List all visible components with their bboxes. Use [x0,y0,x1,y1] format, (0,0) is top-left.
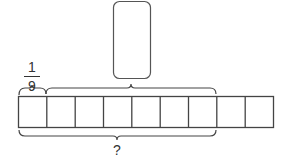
unit-fraction-label: 1 9 [22,60,42,93]
fraction-denominator: 9 [22,79,42,93]
fraction-bar [24,76,40,77]
brace-total [19,130,216,140]
unknown-total-label: ? [108,142,126,158]
answer-box[interactable] [114,2,151,79]
fraction-numerator: 1 [22,60,42,74]
bar-model-diagram [0,0,286,165]
bar-cells [19,97,274,128]
brace-answer-span [46,84,216,94]
